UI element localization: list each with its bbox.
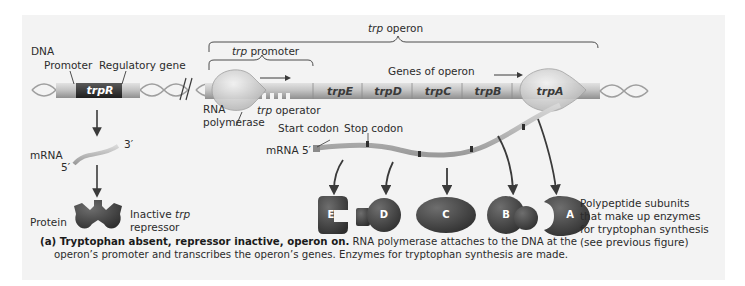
- caption-text-1: RNA polymerase attaches to the DNA at th…: [349, 236, 577, 247]
- stop-codon-marker: [366, 141, 369, 147]
- dna-helix-right: [600, 85, 648, 97]
- polypeptide-label-1: Polypeptide subunits: [580, 197, 689, 210]
- gene-trpC: trpC: [416, 85, 460, 98]
- trp-operon-label: trp operon: [368, 22, 423, 35]
- gene-trpA: trpA: [528, 85, 572, 98]
- trp-italic: trp: [368, 22, 383, 34]
- subunit-A-label: A: [562, 209, 578, 220]
- subunit-C-label: C: [438, 209, 454, 220]
- operator-text: operator: [272, 104, 321, 116]
- gene-trpD: trpD: [366, 85, 410, 98]
- mrna-label: mRNA: [30, 149, 63, 162]
- polypeptide-label-2: that make up enzymes: [580, 210, 700, 223]
- subunit-B-label: B: [498, 209, 514, 220]
- figure-caption: (a) Tryptophan absent, repressor inactiv…: [40, 235, 680, 261]
- inactive-text: Inactive: [130, 208, 175, 220]
- trp-operator-label: trp operator: [257, 104, 321, 117]
- trpR-gene-label: trpR: [80, 84, 120, 97]
- stop-codon-label: Stop codon: [344, 122, 403, 135]
- trp-italic: trp: [257, 104, 272, 116]
- dna-label: DNA: [31, 45, 54, 58]
- subunit-D-label: D: [376, 209, 392, 220]
- gene-trpE: trpE: [318, 85, 362, 98]
- promoter-segment: [56, 83, 76, 98]
- mrna-5prime-label: 5′: [61, 161, 70, 174]
- genes-of-operon-label: Genes of operon: [388, 65, 475, 78]
- caption-text-2: operon’s promoter and transcribes the op…: [40, 248, 680, 261]
- operon-mrna-label: mRNA 5′: [266, 144, 311, 157]
- inactive-repressor-label-1: Inactive trp: [130, 208, 190, 221]
- subunit-E-label: E: [323, 209, 339, 220]
- rna-polymerase-label-1: RNA: [203, 103, 225, 116]
- regulatory-gene-label: Regulatory gene: [99, 59, 186, 72]
- rna-polymerase-label-2: polymerase: [203, 116, 265, 129]
- trp-promoter-label: trp promoter: [232, 45, 299, 58]
- caption-title: (a) Tryptophan absent, repressor inactiv…: [40, 236, 349, 247]
- trp-italic: trp: [232, 45, 247, 57]
- trp-italic: trp: [175, 208, 190, 220]
- mrna-3prime-label: 3′: [124, 138, 133, 151]
- inactive-repressor-label-2: repressor: [130, 221, 179, 234]
- promoter-text: promoter: [247, 45, 299, 57]
- operon-text: operon: [383, 22, 423, 34]
- repressor-mrna: [74, 146, 118, 164]
- inactive-repressor-protein: [74, 200, 122, 229]
- protein-label: Protein: [30, 216, 67, 229]
- promoter-label: Promoter: [44, 59, 92, 72]
- gene-trpB: trpB: [466, 85, 510, 98]
- start-codon-label: Start codon: [278, 122, 339, 135]
